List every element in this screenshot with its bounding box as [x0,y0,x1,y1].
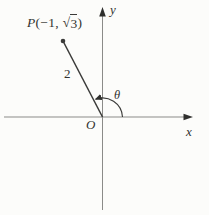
point-p-name: P [27,15,36,30]
point-p-coords-open: (−1, [36,15,63,30]
y-axis-label: y [110,3,116,16]
x-axis-label: x [186,125,192,138]
y-axis-arrowhead [99,7,106,17]
point-p-label: P(−1, √3) [27,16,82,30]
point-p-coords-close: ) [77,15,82,30]
trig-angle-diagram: P(−1, √3) 2 θ O x y [0,0,209,215]
x-axis-arrowhead [184,114,194,121]
point-p-dot [61,39,66,44]
origin-label: O [86,118,95,131]
segment-length-label: 2 [64,67,71,80]
coordinate-plane [0,0,209,215]
angle-theta-label: θ [114,89,120,102]
